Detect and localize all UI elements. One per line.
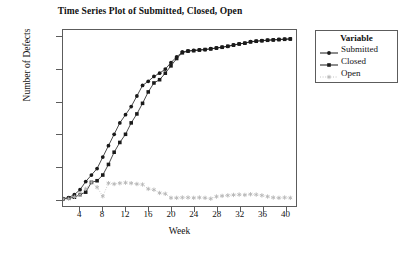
legend-item-open[interactable]: Open bbox=[316, 67, 397, 79]
legend-key-star-icon bbox=[319, 68, 339, 78]
series-submitted bbox=[63, 37, 292, 200]
legend-item-closed[interactable]: Closed bbox=[316, 55, 397, 67]
x-tick-mark bbox=[263, 207, 264, 212]
legend-label: Submitted bbox=[341, 44, 378, 54]
x-tick-mark bbox=[240, 207, 241, 212]
y-axis-title: Number of Defects bbox=[22, 5, 32, 125]
x-tick-mark bbox=[125, 207, 126, 212]
x-tick-mark bbox=[217, 207, 218, 212]
x-tick-mark bbox=[194, 207, 195, 212]
legend: Variable SubmittedClosedOpen bbox=[315, 30, 398, 83]
series-open bbox=[63, 180, 292, 201]
legend-key-filled-circle-icon bbox=[319, 44, 339, 54]
plot-canvas bbox=[63, 30, 296, 206]
x-tick-mark bbox=[171, 207, 172, 212]
x-tick-mark bbox=[148, 207, 149, 212]
legend-key-filled-square-icon bbox=[319, 56, 339, 66]
x-tick-mark bbox=[79, 207, 80, 212]
x-tick-mark bbox=[102, 207, 103, 212]
legend-entries: SubmittedClosedOpen bbox=[316, 43, 397, 79]
legend-label: Open bbox=[341, 68, 361, 78]
legend-item-submitted[interactable]: Submitted bbox=[316, 43, 397, 55]
plot-area bbox=[62, 29, 297, 207]
page-title: Time Series Plot of Submitted, Closed, O… bbox=[0, 6, 300, 16]
legend-label: Closed bbox=[341, 56, 366, 66]
x-axis-title: Week bbox=[62, 226, 297, 236]
x-tick-mark bbox=[286, 207, 287, 212]
series-closed bbox=[63, 37, 292, 201]
legend-title: Variable bbox=[316, 33, 397, 43]
time-series-chart: Time Series Plot of Submitted, Closed, O… bbox=[0, 0, 409, 263]
